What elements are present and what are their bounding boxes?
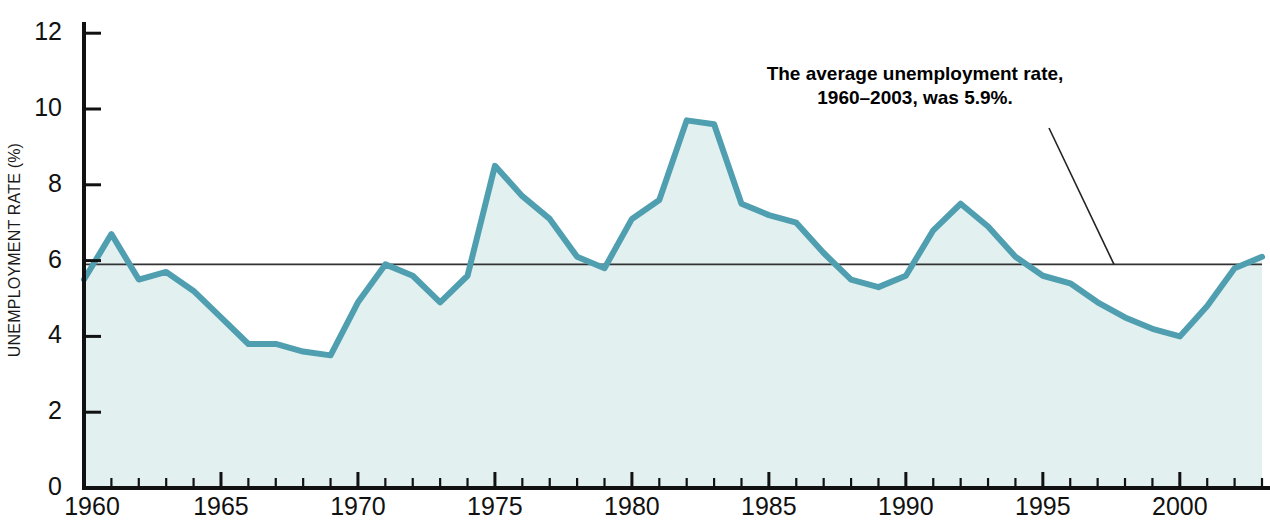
area-fill	[84, 120, 1262, 488]
y-tick-label: 8	[22, 169, 62, 198]
y-tick-label: 4	[22, 320, 62, 349]
y-tick-label: 6	[22, 245, 62, 274]
leader-line	[1049, 128, 1114, 264]
x-tick-label: 1995	[983, 492, 1103, 521]
x-tick-label: 1960	[32, 492, 152, 521]
average-annotation: The average unemployment rate, 1960–2003…	[745, 62, 1085, 111]
x-tick-label: 1985	[709, 492, 829, 521]
annotation-leader-line	[1049, 128, 1114, 264]
x-tick-label: 1990	[846, 492, 966, 521]
x-tick-label: 1965	[161, 492, 281, 521]
annotation-line-2: 1960–2003, was 5.9%.	[745, 86, 1085, 110]
x-tick-label: 1980	[572, 492, 692, 521]
y-tick-label: 10	[22, 93, 62, 122]
x-tick-label: 1970	[298, 492, 418, 521]
unemployment-rate-chart: UNEMPLOYMENT RATE (%) 024681012 19601965…	[0, 0, 1270, 523]
annotation-line-1: The average unemployment rate,	[767, 63, 1064, 84]
area-fill-shape	[84, 120, 1262, 488]
y-tick-label: 2	[22, 396, 62, 425]
x-tick-label: 1975	[435, 492, 555, 521]
x-tick-label: 2000	[1120, 492, 1240, 521]
y-tick-label: 12	[22, 17, 62, 46]
